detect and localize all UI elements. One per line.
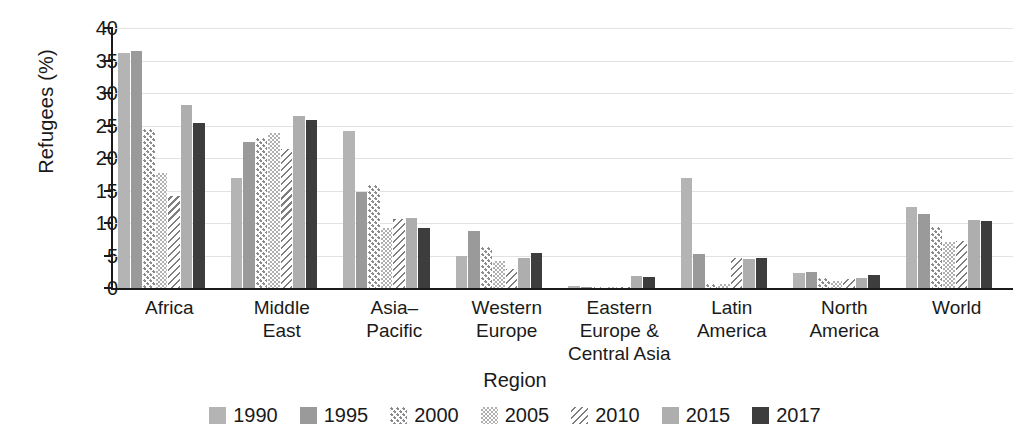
legend-label: 2017 [776,404,821,427]
bar [856,278,868,288]
x-category-label-line: America [776,319,913,342]
bar [943,242,955,288]
bar [618,287,630,288]
x-category-label-line: World [889,296,1026,319]
bar-group [788,28,901,288]
bar [818,278,830,288]
bar [506,269,518,289]
legend-item: 2015 [662,404,731,427]
bar [306,120,318,288]
bar [693,254,705,288]
bar [831,281,843,288]
bar [568,286,580,288]
bar [718,284,730,288]
legend-label: 2000 [414,404,459,427]
bar [143,129,155,288]
legend-item: 2010 [571,404,640,427]
bar [481,247,493,288]
bar [968,220,980,288]
plot-area [113,28,1013,288]
legend-label: 1995 [324,404,369,427]
bar [868,275,880,288]
bar [743,259,755,288]
bar [581,287,593,288]
bar [631,276,643,288]
legend-item: 1995 [300,404,369,427]
bar [731,258,743,288]
bar-group [676,28,789,288]
bar [493,261,505,288]
bar [606,287,618,288]
bar-group [113,28,226,288]
legend-swatch-icon [209,407,226,424]
bar [343,131,355,288]
bar [806,272,818,288]
bar-group [563,28,676,288]
bar [381,228,393,288]
legend-item: 2005 [481,404,550,427]
legend-label: 2015 [686,404,731,427]
bar [368,185,380,288]
bar [393,219,405,288]
bar [406,218,418,288]
bar [231,178,243,288]
bar [456,256,468,288]
bar [468,231,480,288]
bar [131,51,143,288]
legend-swatch-icon [571,407,588,424]
bar [518,258,530,288]
bar [281,149,293,288]
legend-swatch-icon [481,407,498,424]
bar [243,142,255,288]
legend-swatch-icon [390,407,407,424]
legend-label: 2005 [505,404,550,427]
bar [843,279,855,288]
bar [706,284,718,288]
bar [756,258,768,288]
bar [918,214,930,288]
bar [168,196,180,288]
bar-group [226,28,339,288]
bar [156,173,168,288]
bar [418,228,430,288]
bar [268,133,280,288]
bar-group [451,28,564,288]
legend-swatch-icon [752,407,769,424]
legend-swatch-icon [300,407,317,424]
refugees-by-region-bar-chart: Refugees (%) 0510152025303540 AfricaMidd… [0,0,1030,446]
x-axis-line [111,288,1013,290]
bar [681,178,693,288]
bar [356,192,368,288]
legend-item: 2017 [752,404,821,427]
legend-item: 2000 [390,404,459,427]
bar [931,227,943,288]
bar-group [901,28,1014,288]
bar [118,53,130,288]
bar [956,241,968,288]
bar [193,123,205,288]
bar [593,287,605,288]
bar [293,116,305,288]
legend-swatch-icon [662,407,679,424]
x-category-label: World [889,296,1026,319]
chart-legend: 1990199520002005201020152017 [0,404,1030,427]
bar [531,253,543,288]
legend-label: 1990 [233,404,278,427]
bar [906,207,918,288]
bar [981,221,993,288]
bar [643,277,655,288]
x-axis-label: Region [0,369,1030,392]
legend-label: 2010 [595,404,640,427]
bar-group [338,28,451,288]
bar [793,273,805,288]
bar [256,138,268,288]
legend-item: 1990 [209,404,278,427]
bar [181,105,193,288]
x-category-label-line: Central Asia [551,342,688,365]
